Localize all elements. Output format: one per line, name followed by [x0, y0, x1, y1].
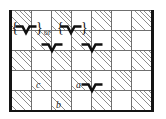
- grid-cell: [131, 70, 151, 90]
- grid-cell: [91, 90, 111, 110]
- grid-cell: [31, 70, 51, 90]
- grid-cell: [91, 70, 111, 90]
- grid-cell: [111, 30, 131, 50]
- grid-cell: [91, 30, 111, 50]
- grid-cell: [71, 70, 91, 90]
- grid-line-horizontal: [11, 90, 151, 91]
- grid-cell: [131, 10, 151, 30]
- grid-cell: [11, 90, 31, 110]
- grid-cell: [71, 90, 91, 110]
- grid-cell: [131, 50, 151, 70]
- grid-line-horizontal: [11, 10, 151, 11]
- or-connective: or: [44, 28, 51, 37]
- grid-cell: [131, 30, 151, 50]
- label-c: c: [36, 79, 40, 90]
- grid-cell: [31, 50, 51, 70]
- grid-cell: [71, 50, 91, 70]
- grid-cell: [11, 70, 31, 90]
- right-brace-open: {: [57, 21, 64, 35]
- grid-cell: [31, 90, 51, 110]
- grid-line-vertical: [91, 10, 92, 110]
- checkerboard-figure: { } or { } c a b: [0, 0, 166, 119]
- grid-cell: [11, 50, 31, 70]
- grid-cell: [51, 70, 71, 90]
- grid-cell: [111, 90, 131, 110]
- grid-cell: [111, 10, 131, 30]
- grid-line-vertical: [71, 10, 72, 110]
- grid-cell: [111, 50, 131, 70]
- border-right: [151, 8, 154, 112]
- grid-line-vertical: [51, 10, 52, 110]
- grid-line-vertical: [111, 10, 112, 110]
- label-a: a: [76, 79, 81, 90]
- grid-line-horizontal: [11, 70, 151, 71]
- grid-line-horizontal: [11, 50, 151, 51]
- grid-line-vertical: [131, 10, 132, 110]
- grid-cell: [91, 50, 111, 70]
- border-bottom: [9, 110, 154, 113]
- right-brace-close: }: [81, 21, 88, 35]
- left-brace-close: }: [36, 21, 43, 35]
- top-open-edge-mask: [0, 0, 166, 10]
- grid-cell: [131, 90, 151, 110]
- grid-line-vertical: [31, 10, 32, 110]
- grid-cell: [91, 10, 111, 30]
- grid-cell: [51, 90, 71, 110]
- grid-cell: [51, 50, 71, 70]
- label-b: b: [56, 99, 61, 110]
- left-brace-open: {: [12, 21, 19, 35]
- grid-cell: [111, 70, 131, 90]
